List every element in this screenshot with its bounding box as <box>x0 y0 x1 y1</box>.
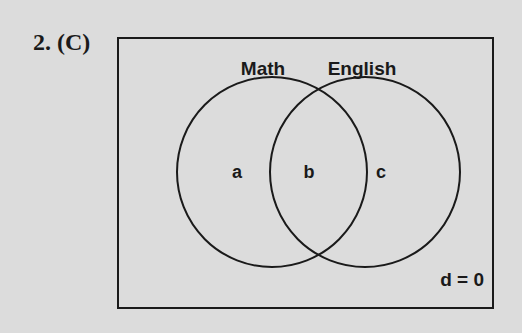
region-a: a <box>232 162 243 182</box>
math-circle <box>177 77 367 267</box>
venn-diagram: Math English a b c d = 0 <box>0 0 522 333</box>
region-c: c <box>376 162 386 182</box>
math-label: Math <box>241 58 285 79</box>
english-label: English <box>328 58 397 79</box>
region-b: b <box>304 162 315 182</box>
outside-label: d = 0 <box>440 269 484 290</box>
english-circle <box>270 77 460 267</box>
